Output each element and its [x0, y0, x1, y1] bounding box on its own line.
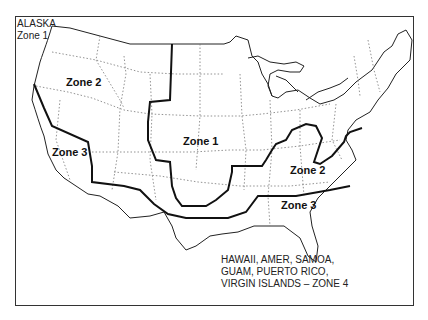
note-line1: HAWAII, AMER, SAMOA, — [221, 254, 348, 266]
zone-3-east-label: Zone 3 — [281, 199, 316, 211]
zone-1-label: Zone 1 — [183, 135, 218, 147]
alaska-label-line2: Zone 1 — [17, 30, 56, 42]
state-borders — [36, 36, 380, 226]
alaska-label: ALASKA Zone 1 — [17, 18, 56, 42]
great-lakes — [248, 56, 348, 100]
zone-2-west-label: Zone 2 — [66, 76, 101, 88]
zone-boundary-zone1 — [148, 44, 362, 206]
territories-note: HAWAII, AMER, SAMOA, GUAM, PUERTO RICO, … — [221, 254, 348, 290]
note-line2: GUAM, PUERTO RICO, — [221, 266, 348, 278]
alaska-label-line1: ALASKA — [17, 18, 56, 30]
zone-3-west-label: Zone 3 — [52, 146, 87, 158]
note-line3: VIRGIN ISLANDS – ZONE 4 — [221, 278, 348, 290]
zone-2-east-label: Zone 2 — [290, 164, 325, 176]
usa-outline-map — [0, 0, 428, 320]
zone-boundaries — [34, 44, 362, 218]
